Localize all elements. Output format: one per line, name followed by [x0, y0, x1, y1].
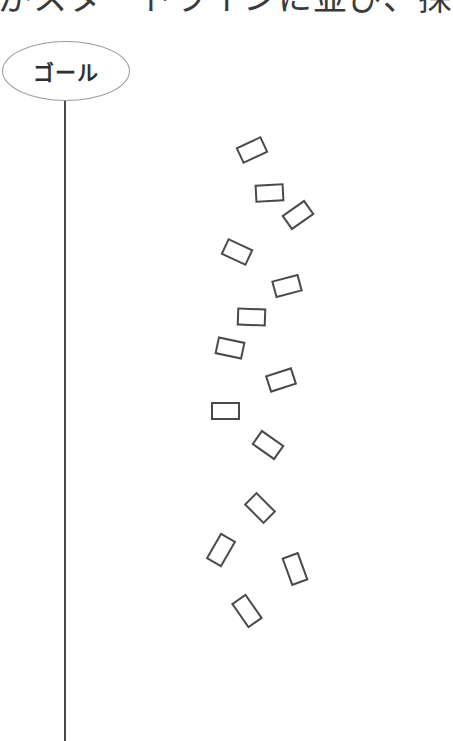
card-shape: [214, 336, 245, 359]
card-shape: [281, 200, 314, 231]
card-shape: [251, 430, 284, 461]
card-shape: [231, 594, 263, 629]
track-line: [64, 101, 66, 741]
goal-node: ゴール: [2, 41, 130, 101]
card-shape: [281, 552, 308, 586]
clipped-heading-text: がスタートラインに並び、探: [0, 0, 453, 15]
card-shape: [206, 533, 237, 568]
card-shape: [265, 367, 297, 393]
card-shape: [244, 492, 277, 525]
goal-label: ゴール: [33, 56, 99, 86]
card-shape: [254, 183, 284, 202]
card-shape: [211, 402, 240, 420]
card-shape: [271, 274, 303, 299]
card-shape: [236, 307, 266, 326]
card-shape: [236, 136, 269, 164]
card-shape: [221, 238, 254, 266]
